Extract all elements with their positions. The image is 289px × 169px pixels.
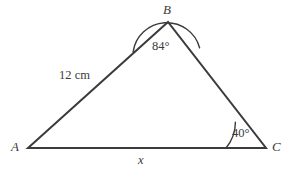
vertex-label-c: C bbox=[272, 140, 281, 153]
vertex-label-b: B bbox=[163, 3, 171, 16]
angle-label-b: 84° bbox=[152, 40, 170, 53]
side-length-label-ac: x bbox=[138, 154, 144, 167]
triangle-outline bbox=[28, 22, 266, 148]
angle-label-c: 40° bbox=[232, 127, 250, 140]
triangle-diagram-svg bbox=[0, 0, 289, 169]
side-length-label-ab: 12 cm bbox=[59, 69, 90, 82]
geometry-figure: B A C 84° 40° 12 cm x bbox=[0, 0, 289, 169]
vertex-label-a: A bbox=[11, 140, 19, 153]
